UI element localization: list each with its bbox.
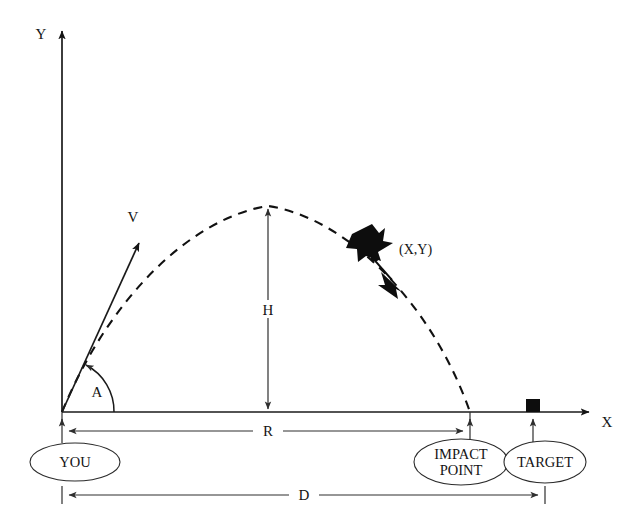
impact-point-label-line1: IMPACT bbox=[434, 446, 488, 462]
angle-label: A bbox=[92, 384, 103, 400]
target-label: TARGET bbox=[517, 454, 573, 470]
height-dimension-group: H bbox=[263, 209, 274, 409]
axis-group: Y X bbox=[36, 26, 613, 430]
projectile-diagram: Y X V A (X,Y) bbox=[0, 0, 639, 528]
x-axis-label: X bbox=[602, 414, 613, 430]
projectile-position-dot bbox=[371, 254, 378, 261]
velocity-label: V bbox=[128, 209, 139, 225]
y-axis-label: Y bbox=[36, 26, 47, 42]
distance-dimension-group: D bbox=[62, 486, 545, 504]
you-label: YOU bbox=[59, 454, 91, 470]
range-label: R bbox=[263, 423, 273, 439]
dart-arrowhead bbox=[378, 272, 402, 299]
callout-target: TARGET bbox=[504, 441, 586, 483]
diagram-canvas: Y X V A (X,Y) bbox=[0, 0, 639, 528]
dart-fletching bbox=[346, 224, 393, 262]
height-label: H bbox=[263, 302, 274, 318]
callout-impact-point: IMPACT POINT bbox=[414, 439, 508, 485]
range-dimension-group: R bbox=[62, 412, 470, 439]
projectile-group: (X,Y) bbox=[346, 224, 432, 299]
distance-label: D bbox=[299, 487, 310, 503]
impact-point-label-line2: POINT bbox=[440, 462, 483, 478]
projectile-position-label: (X,Y) bbox=[399, 242, 432, 258]
velocity-vector-group: V bbox=[62, 209, 139, 412]
angle-group: A bbox=[86, 365, 114, 412]
target-marker-square bbox=[526, 399, 540, 412]
callout-you: YOU bbox=[30, 443, 120, 481]
